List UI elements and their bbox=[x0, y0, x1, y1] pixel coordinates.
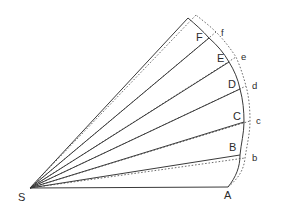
solid-ray-SC bbox=[30, 122, 244, 188]
vertex-label-F: F bbox=[196, 31, 203, 43]
solid-ray-SA bbox=[30, 187, 228, 188]
vertex-label-S: S bbox=[18, 191, 25, 203]
vertex-label-c: c bbox=[256, 115, 261, 126]
vertex-label-f: f bbox=[221, 27, 224, 38]
vertex-label-d: d bbox=[252, 80, 257, 91]
vertex-label-B: B bbox=[229, 141, 236, 153]
solid-ray-SB bbox=[30, 155, 240, 188]
diagram-svg: S A B C D E F b c d e f bbox=[0, 0, 281, 216]
vertex-label-A: A bbox=[224, 189, 232, 201]
solid-ray-SF bbox=[30, 38, 209, 188]
vertex-label-b: b bbox=[252, 152, 257, 163]
vertex-label-C: C bbox=[233, 110, 241, 122]
vertex-label-D: D bbox=[228, 78, 236, 90]
geometric-diagram-canvas: S A B C D E F b c d e f bbox=[0, 0, 281, 216]
dotted-ray-group bbox=[30, 15, 250, 188]
vertex-label-E: E bbox=[217, 52, 224, 64]
vertex-label-e: e bbox=[241, 51, 246, 62]
